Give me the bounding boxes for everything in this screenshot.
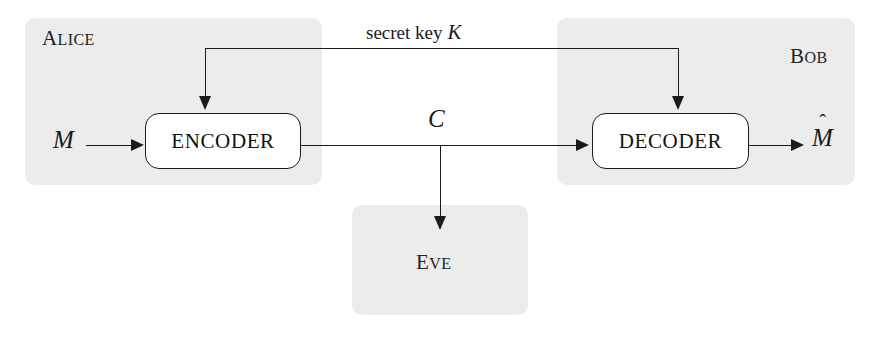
encoder-block: ENCODER xyxy=(145,113,301,169)
eve-label-rest: VE xyxy=(429,255,451,272)
arrowhead-right-icon-encoder-input xyxy=(131,139,144,151)
decoded-output-hat-wrap: ˆM xyxy=(812,124,833,152)
arrowhead-down-icon-encoder-key xyxy=(199,96,211,110)
ciphertext-channel-wire xyxy=(301,145,577,146)
cryptosystem-diagram: ALICE BOB EVE secret keyK M ENCODER DECO… xyxy=(0,0,886,343)
secret-key-drop-to-encoder xyxy=(205,48,206,98)
circumflex-accent-icon: ˆ xyxy=(819,112,826,133)
secret-key-symbol: K xyxy=(442,20,461,44)
alice-label-initial: A xyxy=(42,26,58,50)
arrowhead-right-icon-decoder-input xyxy=(576,139,589,151)
bob-label: BOB xyxy=(790,44,827,69)
secret-key-bus-line xyxy=(205,48,679,49)
alice-label-rest: LICE xyxy=(58,31,95,48)
secret-key-label: secret keyK xyxy=(366,20,462,45)
secret-key-text: secret key xyxy=(366,22,442,43)
plaintext-input-label: M xyxy=(53,126,74,154)
eve-label-initial: E xyxy=(416,250,429,274)
decoded-output-wire xyxy=(749,145,792,146)
alice-label: ALICE xyxy=(42,26,95,51)
arrowhead-down-icon-decoder-key xyxy=(672,96,684,110)
bob-label-initial: B xyxy=(790,44,804,68)
eve-label: EVE xyxy=(416,250,451,275)
plaintext-input-wire xyxy=(86,145,132,146)
arrowhead-down-icon-eve-input xyxy=(434,216,446,230)
arrowhead-right-icon-decoder-output xyxy=(791,139,804,151)
bob-label-rest: OB xyxy=(804,49,827,66)
decoded-output-label: ˆM xyxy=(812,124,833,152)
eavesdropper-tap-wire xyxy=(440,146,441,218)
decoder-block: DECODER xyxy=(592,113,749,169)
encoder-label: ENCODER xyxy=(171,129,274,154)
decoder-label: DECODER xyxy=(619,129,722,154)
ciphertext-label: C xyxy=(428,105,445,133)
secret-key-drop-to-decoder xyxy=(678,48,679,98)
